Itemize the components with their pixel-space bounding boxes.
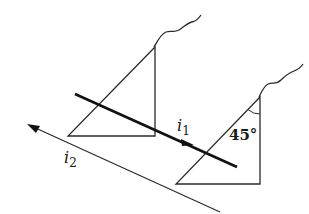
label-i2: i2: [64, 148, 77, 170]
ray-i2-arrow-icon: [27, 124, 40, 133]
right-prism: [176, 64, 303, 184]
label-angle: 45°: [229, 126, 257, 144]
right-prism-break-line: [259, 64, 303, 97]
left-prism-break-line: [154, 15, 201, 47]
label-i1: i1: [177, 116, 190, 138]
diagram-canvas: i1 i2 45°: [0, 0, 309, 214]
angle-arc: [248, 110, 260, 115]
ray-i1-arrow-icon: [181, 139, 194, 146]
ray-i1: [75, 94, 237, 167]
